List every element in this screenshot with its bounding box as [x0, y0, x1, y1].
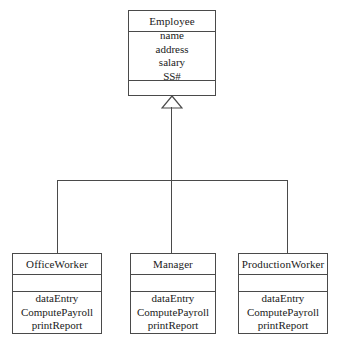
- connector-bus: [57, 180, 288, 181]
- class-box-manager[interactable]: Manager dataEntry ComputePayroll printRe…: [130, 253, 216, 334]
- class-box-employee[interactable]: Employee name address salary SS#: [128, 10, 216, 96]
- operations-compartment: dataEntry ComputePayroll printReport: [131, 291, 215, 333]
- operation-item: dataEntry: [152, 292, 195, 306]
- operations-compartment: [129, 80, 215, 95]
- class-name-compartment: OfficeWorker: [13, 254, 101, 274]
- uml-class-diagram: Employee name address salary SS# OfficeW…: [0, 0, 339, 341]
- class-name-employee: Employee: [149, 15, 194, 28]
- class-name-compartment: ProductionWorker: [239, 254, 327, 274]
- attributes-compartment: [239, 274, 327, 291]
- class-name-compartment: Employee: [129, 11, 215, 31]
- class-box-officeworker[interactable]: OfficeWorker dataEntry ComputePayroll pr…: [12, 253, 102, 334]
- attribute-item: name: [160, 29, 184, 43]
- attributes-compartment: [131, 274, 215, 291]
- inheritance-triangle-icon: [161, 95, 183, 109]
- operation-item: ComputePayroll: [247, 306, 319, 320]
- operations-compartment: dataEntry ComputePayroll printReport: [239, 291, 327, 333]
- attributes-compartment: name address salary SS#: [129, 31, 215, 80]
- operation-item: ComputePayroll: [137, 306, 209, 320]
- operation-item: printReport: [258, 319, 309, 333]
- attribute-item: salary: [159, 56, 185, 70]
- operation-item: ComputePayroll: [21, 306, 93, 320]
- class-name-compartment: Manager: [131, 254, 215, 274]
- attributes-compartment: [13, 274, 101, 291]
- connector-stem: [171, 107, 172, 181]
- class-name-productionworker: ProductionWorker: [242, 258, 325, 271]
- connector-drop-officeworker: [57, 180, 58, 253]
- operation-item: dataEntry: [262, 292, 305, 306]
- connector-drop-productionworker: [287, 180, 288, 253]
- connector-drop-manager: [171, 180, 172, 253]
- class-name-manager: Manager: [153, 258, 193, 271]
- operation-item: printReport: [148, 319, 199, 333]
- class-name-officeworker: OfficeWorker: [26, 258, 88, 271]
- operation-item: printReport: [32, 319, 83, 333]
- operations-compartment: dataEntry ComputePayroll printReport: [13, 291, 101, 333]
- attribute-item: address: [156, 43, 189, 57]
- class-box-productionworker[interactable]: ProductionWorker dataEntry ComputePayrol…: [238, 253, 328, 334]
- operation-item: dataEntry: [36, 292, 79, 306]
